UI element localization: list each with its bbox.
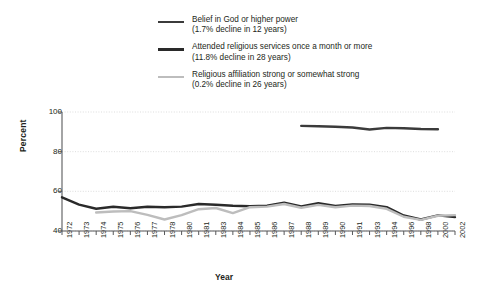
chart-plot-area: Percent Year 406080100 19721973197419751… — [0, 0, 478, 292]
series-line-0 — [301, 126, 438, 130]
chart-figure: Belief in God or higher power (1.7% decl… — [0, 0, 478, 292]
chart-canvas — [0, 0, 478, 292]
axis-ticks — [58, 112, 455, 235]
series-line-1 — [62, 197, 455, 219]
data-series — [62, 126, 455, 220]
